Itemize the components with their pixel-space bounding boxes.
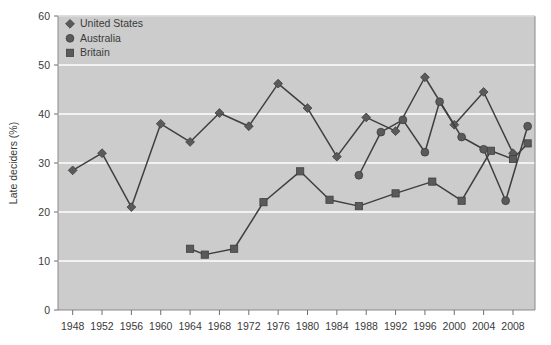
x-tick-label: 1980 [296, 320, 320, 332]
x-tick-label: 1996 [413, 320, 437, 332]
data-point [297, 168, 304, 175]
y-tick-label: 20 [38, 206, 50, 218]
data-point [355, 171, 363, 179]
x-axis: 1948195219561960196419681972197619801984… [61, 310, 525, 332]
data-point [509, 155, 516, 162]
y-tick-label: 60 [38, 10, 50, 22]
data-point [524, 122, 532, 130]
line-chart: 0102030405060194819521956196019641968197… [0, 0, 551, 345]
data-point [399, 116, 407, 124]
data-point [480, 145, 488, 153]
x-tick-label: 2004 [472, 320, 496, 332]
data-point [429, 178, 436, 185]
x-tick-label: 2000 [443, 320, 467, 332]
data-point [326, 196, 333, 203]
x-tick-label: 1968 [208, 320, 232, 332]
y-tick-label: 50 [38, 59, 50, 71]
data-point [458, 197, 465, 204]
x-tick-label: 1984 [325, 320, 349, 332]
y-tick-label: 0 [44, 304, 50, 316]
legend-label: Britain [80, 46, 110, 58]
y-axis: 0102030405060 [38, 10, 58, 316]
legend-marker-square [66, 49, 73, 56]
data-point [231, 245, 238, 252]
data-point [355, 203, 362, 210]
data-point [421, 148, 429, 156]
y-tick-label: 40 [38, 108, 50, 120]
x-tick-label: 1952 [90, 320, 114, 332]
x-tick-label: 1948 [61, 320, 85, 332]
data-point [201, 251, 208, 258]
data-point [377, 128, 385, 136]
x-tick-label: 2008 [501, 320, 525, 332]
x-tick-label: 1988 [355, 320, 379, 332]
y-tick-label: 10 [38, 255, 50, 267]
data-point [524, 140, 531, 147]
y-tick-label: 30 [38, 157, 50, 169]
x-tick-label: 1972 [237, 320, 261, 332]
legend-marker-circle [66, 34, 74, 42]
data-point [502, 197, 510, 205]
data-point [392, 190, 399, 197]
x-tick-label: 1976 [266, 320, 290, 332]
data-point [458, 133, 466, 141]
legend-label: Australia [80, 32, 121, 44]
x-tick-label: 1960 [149, 320, 173, 332]
y-axis-label: Late deciders (%) [7, 122, 19, 204]
data-point [260, 199, 267, 206]
data-point [436, 98, 444, 106]
chart-figure: 0102030405060194819521956196019641968197… [0, 0, 551, 345]
x-tick-label: 1964 [178, 320, 202, 332]
data-point [186, 245, 193, 252]
x-tick-label: 1992 [384, 320, 408, 332]
legend-label: United States [80, 17, 143, 29]
data-point [487, 147, 494, 154]
x-tick-label: 1956 [120, 320, 144, 332]
